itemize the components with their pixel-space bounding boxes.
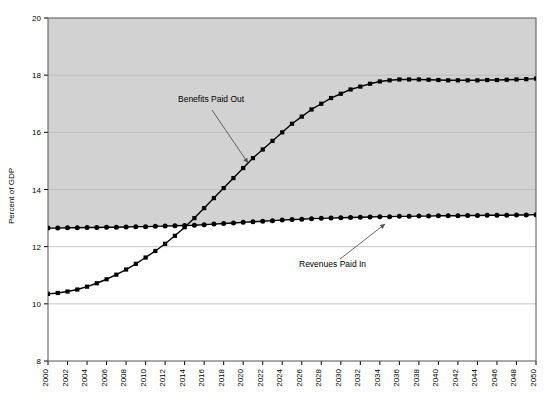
x-tick-label: 2040 bbox=[431, 368, 440, 386]
data-point-marker bbox=[377, 214, 382, 219]
data-point-marker bbox=[348, 87, 352, 91]
data-point-marker bbox=[494, 213, 499, 218]
data-point-marker bbox=[329, 96, 333, 100]
annotation-label-benefits: Benefits Paid Out bbox=[178, 94, 245, 104]
data-point-marker bbox=[475, 78, 479, 82]
y-axis-title: Percent of GDP bbox=[7, 168, 16, 224]
x-tick-label: 2034 bbox=[373, 368, 382, 386]
data-point-marker bbox=[95, 281, 99, 285]
data-point-marker bbox=[465, 213, 470, 218]
data-point-marker bbox=[280, 218, 285, 223]
data-point-marker bbox=[338, 215, 343, 220]
data-point-marker bbox=[299, 217, 304, 222]
annotation-label-revenues: Revenues Paid In bbox=[299, 259, 366, 269]
data-point-marker bbox=[134, 262, 138, 266]
data-point-marker bbox=[505, 78, 509, 82]
x-tick-label: 2008 bbox=[119, 368, 128, 386]
data-point-marker bbox=[290, 122, 294, 126]
data-point-marker bbox=[388, 78, 392, 82]
data-point-marker bbox=[407, 77, 411, 81]
data-point-marker bbox=[163, 224, 168, 229]
data-point-marker bbox=[182, 223, 187, 228]
y-tick-label: 18 bbox=[32, 71, 41, 80]
data-point-marker bbox=[446, 213, 451, 218]
data-point-marker bbox=[319, 102, 323, 106]
data-point-marker bbox=[163, 242, 167, 246]
x-tick-label: 2026 bbox=[295, 368, 304, 386]
data-point-marker bbox=[65, 289, 69, 293]
data-point-marker bbox=[466, 78, 470, 82]
data-point-marker bbox=[114, 273, 118, 277]
data-point-marker bbox=[231, 176, 235, 180]
data-point-marker bbox=[75, 287, 79, 291]
data-point-marker bbox=[407, 214, 412, 219]
x-tick-label: 2000 bbox=[41, 368, 50, 386]
data-point-marker bbox=[475, 213, 480, 218]
x-tick-label: 2044 bbox=[470, 368, 479, 386]
data-point-marker bbox=[104, 277, 108, 281]
data-point-marker bbox=[495, 78, 499, 82]
x-tick-label: 2050 bbox=[529, 368, 538, 386]
x-tick-label: 2030 bbox=[334, 368, 343, 386]
data-point-marker bbox=[290, 217, 295, 222]
data-point-marker bbox=[221, 221, 226, 226]
y-tick-label: 10 bbox=[32, 300, 41, 309]
data-point-marker bbox=[300, 115, 304, 119]
data-point-marker bbox=[104, 225, 109, 230]
data-point-marker bbox=[124, 267, 128, 271]
chart-container: 8101214161820 20002002200420062008201020… bbox=[0, 0, 550, 411]
data-point-marker bbox=[75, 225, 80, 230]
y-tick-label: 12 bbox=[32, 243, 41, 252]
data-point-marker bbox=[144, 255, 148, 259]
x-tick-label: 2012 bbox=[158, 368, 167, 386]
data-point-marker bbox=[153, 249, 157, 253]
data-point-marker bbox=[251, 156, 255, 160]
x-tick-label: 2006 bbox=[100, 368, 109, 386]
data-point-marker bbox=[427, 78, 431, 82]
data-point-marker bbox=[485, 213, 490, 218]
data-point-marker bbox=[56, 291, 60, 295]
data-point-marker bbox=[133, 224, 138, 229]
data-point-marker bbox=[261, 147, 265, 151]
data-point-marker bbox=[270, 139, 274, 143]
y-tick-label: 8 bbox=[37, 357, 42, 366]
data-point-marker bbox=[417, 77, 421, 81]
data-point-marker bbox=[241, 220, 246, 225]
x-tick-label: 2032 bbox=[353, 368, 362, 386]
x-tick-label: 2038 bbox=[412, 368, 421, 386]
data-point-marker bbox=[280, 130, 284, 134]
chart-canvas: 8101214161820 20002002200420062008201020… bbox=[0, 0, 550, 411]
data-point-marker bbox=[192, 223, 197, 228]
data-point-marker bbox=[85, 225, 90, 230]
data-point-marker bbox=[250, 219, 255, 224]
x-tick-label: 2004 bbox=[80, 368, 89, 386]
data-point-marker bbox=[358, 85, 362, 89]
data-point-marker bbox=[455, 213, 460, 218]
y-tick-label: 20 bbox=[32, 14, 41, 23]
data-point-marker bbox=[514, 212, 519, 217]
x-tick-label: 2014 bbox=[178, 368, 187, 386]
data-point-marker bbox=[309, 216, 314, 221]
x-tick-label: 2010 bbox=[139, 368, 148, 386]
x-tick-label: 2046 bbox=[490, 368, 499, 386]
data-point-marker bbox=[485, 78, 489, 82]
data-point-marker bbox=[378, 79, 382, 83]
data-point-marker bbox=[436, 213, 441, 218]
data-point-marker bbox=[514, 77, 518, 81]
data-point-marker bbox=[504, 213, 509, 218]
y-tick-label: 14 bbox=[32, 186, 41, 195]
data-point-marker bbox=[368, 214, 373, 219]
data-point-marker bbox=[436, 78, 440, 82]
data-point-marker bbox=[211, 222, 216, 227]
x-tick-label: 2016 bbox=[197, 368, 206, 386]
data-point-marker bbox=[241, 166, 245, 170]
data-point-marker bbox=[416, 214, 421, 219]
data-point-marker bbox=[426, 214, 431, 219]
data-point-marker bbox=[339, 92, 343, 96]
data-point-marker bbox=[387, 214, 392, 219]
data-point-marker bbox=[358, 215, 363, 220]
data-point-marker bbox=[202, 222, 207, 227]
data-point-marker bbox=[202, 206, 206, 210]
data-point-marker bbox=[153, 224, 158, 229]
data-point-marker bbox=[192, 216, 196, 220]
